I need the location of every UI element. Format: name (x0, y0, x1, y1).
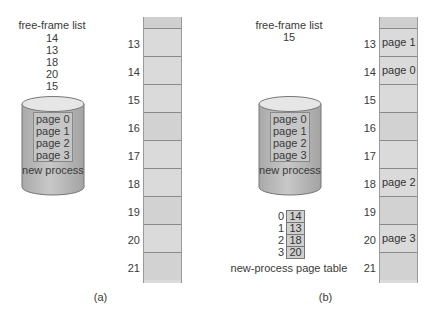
memory-frame (380, 253, 417, 280)
frame-number: 19 (120, 206, 140, 218)
frame-number: 20 (120, 234, 140, 246)
frame-number: 17 (120, 150, 140, 162)
frame-number: 17 (356, 150, 376, 162)
page-table-index: 2 (276, 234, 284, 246)
memory-frame (380, 141, 417, 169)
physical-memory (143, 17, 182, 283)
memory-frame: page 0 (380, 57, 417, 85)
frame-number: 14 (120, 66, 140, 78)
frame-number: 16 (120, 122, 140, 134)
caption-a: (a) (88, 291, 113, 303)
caption-b: (b) (313, 291, 338, 303)
memory-frame (144, 197, 181, 225)
frame-number: 20 (356, 234, 376, 246)
memory-top-region (144, 17, 181, 29)
memory-frame (144, 85, 181, 113)
frame-number: 16 (356, 122, 376, 134)
physical-memory: page 1 page 0 page 2 page 3 (379, 17, 418, 283)
memory-frame: page 1 (380, 29, 417, 57)
memory-frame (380, 113, 417, 141)
disk-label: new process (21, 164, 85, 176)
memory-top-region (380, 17, 417, 29)
disk-page: page 1 (273, 125, 307, 137)
memory-frame (144, 141, 181, 169)
frame-number: 18 (356, 178, 376, 190)
memory-frame: page 3 (380, 225, 417, 253)
frame-number: 13 (120, 38, 140, 50)
disk-page: page 2 (36, 137, 70, 149)
frame-number: 14 (356, 66, 376, 78)
memory-frame (144, 225, 181, 253)
disk-page: page 0 (273, 113, 307, 125)
free-frame-item: 20 (2, 68, 102, 80)
memory-frame (380, 197, 417, 225)
frame-number: 21 (356, 262, 376, 274)
disk-page: page 3 (36, 149, 70, 161)
memory-frame (144, 169, 181, 197)
page-table-label: new-process page table (224, 262, 354, 274)
page-table-index: 3 (276, 246, 284, 258)
free-frame-item: 15 (239, 31, 339, 43)
free-frame-list-title: free-frame list (239, 19, 339, 31)
disk-label: new process (258, 164, 322, 176)
page-table-entry: 20 (286, 246, 305, 259)
memory-frame: page 2 (380, 169, 417, 197)
free-frame-list-title: free-frame list (2, 19, 102, 31)
frame-number: 15 (120, 94, 140, 106)
memory-frame (144, 29, 181, 57)
memory-frame (144, 57, 181, 85)
frame-number: 21 (120, 262, 140, 274)
free-frame-item: 15 (2, 80, 102, 92)
memory-frame (144, 253, 181, 280)
memory-frame (380, 85, 417, 113)
frame-number: 15 (356, 94, 376, 106)
frame-number: 18 (120, 178, 140, 190)
frame-number: 19 (356, 206, 376, 218)
free-frame-item: 18 (2, 56, 102, 68)
disk-page: page 2 (273, 137, 307, 149)
disk-page: page 1 (36, 125, 70, 137)
page-table-index: 0 (276, 210, 284, 222)
memory-frame (144, 113, 181, 141)
disk-page: page 0 (36, 113, 70, 125)
free-frame-item: 14 (2, 32, 102, 44)
free-frame-item: 13 (2, 44, 102, 56)
disk-page: page 3 (273, 149, 307, 161)
page-table-index: 1 (276, 222, 284, 234)
frame-number: 13 (356, 38, 376, 50)
